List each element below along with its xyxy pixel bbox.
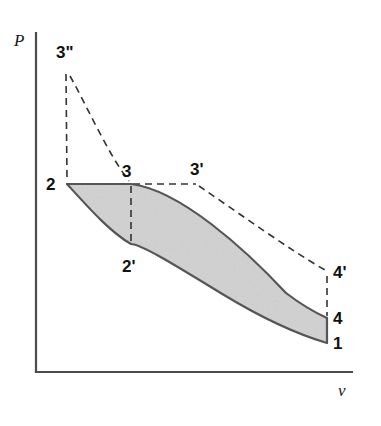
point-label-1: 1: [333, 335, 342, 352]
point-label-3-double-prime: 3": [56, 44, 74, 61]
point-label-2: 2: [46, 176, 55, 193]
point-label-2-prime: 2': [122, 258, 136, 275]
point-label-3-prime: 3': [190, 161, 204, 178]
point-label-4: 4: [333, 310, 342, 327]
point-label-4-prime: 4': [333, 264, 347, 281]
x-axis-label: v: [338, 382, 346, 399]
dashed-3pp-to-3: [70, 76, 129, 181]
point-label-3: 3: [122, 163, 131, 180]
y-axis-label: P: [14, 32, 24, 49]
work-area-shaded: [60, 178, 335, 353]
dashed-3pp-to-2: [66, 74, 67, 180]
pv-diagram-figure: P v 1 2 3 4 2' 3' 3" 4': [0, 0, 381, 426]
pv-diagram-canvas: [0, 0, 381, 426]
